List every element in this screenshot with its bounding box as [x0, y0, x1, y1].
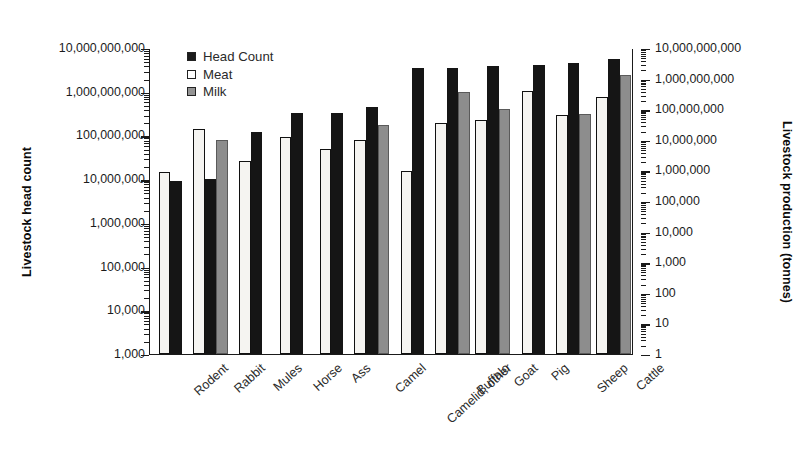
right-tick-label: 1,000,000 [655, 164, 710, 176]
right-tick-label: 1,000 [655, 256, 686, 268]
right-minor-tick [641, 101, 646, 102]
right-minor-tick [641, 306, 646, 307]
right-minor-tick [641, 214, 646, 215]
right-axis-title: Livestock production (tonnes) [780, 97, 794, 327]
left-major-tick [141, 355, 149, 356]
right-minor-tick [641, 279, 646, 280]
right-minor-tick [641, 346, 646, 347]
right-tick-label: 100 [655, 287, 676, 299]
bar-meat [401, 171, 413, 354]
right-major-tick [641, 355, 650, 356]
right-minor-tick [641, 340, 646, 341]
bar-meat [556, 115, 568, 354]
right-minor-tick [641, 265, 646, 266]
right-minor-tick [641, 315, 646, 316]
right-minor-tick [641, 86, 646, 87]
right-minor-tick [641, 275, 646, 276]
bar-group [432, 49, 472, 354]
right-minor-tick [641, 239, 646, 240]
legend-item: Head Count [187, 48, 273, 66]
right-minor-tick [641, 203, 646, 204]
bar-group [392, 49, 432, 354]
legend-swatch-icon [187, 87, 196, 96]
right-minor-tick [641, 218, 646, 219]
bar-head [412, 68, 424, 354]
right-minor-tick [641, 337, 646, 338]
bar-head [170, 181, 182, 354]
legend-swatch-icon [187, 52, 196, 61]
x-category-label: Goat [511, 361, 541, 390]
right-minor-tick [641, 70, 646, 71]
bar-head [568, 63, 580, 354]
right-minor-tick [641, 119, 646, 120]
bar-milk [499, 109, 511, 354]
right-minor-tick [641, 52, 646, 53]
legend-swatch-icon [187, 70, 196, 79]
bar-meat [280, 137, 292, 354]
right-minor-tick [641, 266, 646, 267]
right-minor-tick [641, 84, 646, 85]
bar-head [291, 113, 303, 354]
right-tick-label: 1 [655, 348, 662, 360]
right-minor-tick [641, 301, 646, 302]
right-minor-tick [641, 237, 646, 238]
right-minor-tick [641, 254, 646, 255]
bar-meat [596, 97, 608, 354]
right-minor-tick [641, 174, 646, 175]
right-tick-label: 1,000,000,000 [655, 73, 734, 85]
bar-meat [193, 129, 205, 354]
bar-meat [159, 172, 171, 354]
left-axis-ticks: 10,000,000,0001,000,000,000100,000,00010… [0, 0, 145, 462]
bar-meat [435, 123, 447, 354]
bar-head [366, 107, 378, 354]
livestock-bar-chart: Livestock head count Livestock productio… [0, 0, 799, 462]
right-minor-tick [641, 242, 646, 243]
right-minor-tick [641, 150, 646, 151]
right-minor-tick [641, 89, 646, 90]
right-minor-tick [641, 115, 646, 116]
left-tick-label: 100,000,000 [3, 129, 145, 141]
right-minor-tick [641, 58, 646, 59]
right-minor-tick [641, 334, 646, 335]
x-category-label: Rodent [192, 361, 232, 399]
right-tick-label: 10,000,000,000 [655, 42, 741, 54]
right-minor-tick [641, 126, 646, 127]
right-minor-tick [641, 295, 646, 296]
right-minor-tick [641, 249, 646, 250]
right-minor-tick [641, 223, 646, 224]
right-minor-tick [641, 157, 646, 158]
legend-item: Milk [187, 83, 273, 101]
right-minor-tick [641, 81, 646, 82]
left-tick-label: 10,000 [3, 304, 145, 316]
left-tick-label: 1,000,000 [3, 217, 145, 229]
bar-group [473, 49, 513, 354]
bar-head [251, 132, 263, 354]
bar-head [331, 113, 343, 354]
legend-label: Head Count [203, 48, 273, 66]
x-category-label: Pig [549, 361, 572, 384]
right-minor-tick [641, 326, 646, 327]
right-minor-tick [641, 162, 646, 163]
x-category-label: Mules [270, 361, 304, 394]
right-tick-label: 10,000 [655, 226, 693, 238]
right-minor-tick [641, 146, 646, 147]
right-minor-tick [641, 245, 646, 246]
x-category-label: Horse [311, 361, 345, 394]
right-minor-tick [641, 142, 646, 143]
bar-meat [522, 91, 534, 354]
right-minor-tick [641, 122, 646, 123]
right-minor-tick [641, 331, 646, 332]
right-minor-tick [641, 176, 646, 177]
x-category-label: Camel [392, 361, 428, 396]
right-minor-tick [641, 297, 646, 298]
right-minor-tick [641, 96, 646, 97]
left-tick-label: 1,000 [3, 348, 145, 360]
right-axis-ticks: 10,000,000,0001,000,000,000100,000,00010… [641, 0, 771, 462]
right-minor-tick [641, 181, 646, 182]
left-tick-label: 1,000,000,000 [3, 86, 145, 98]
bar-group [150, 49, 190, 354]
right-minor-tick [641, 113, 646, 114]
bar-meat [320, 149, 332, 354]
bar-milk [579, 114, 591, 354]
bar-group [311, 49, 351, 354]
